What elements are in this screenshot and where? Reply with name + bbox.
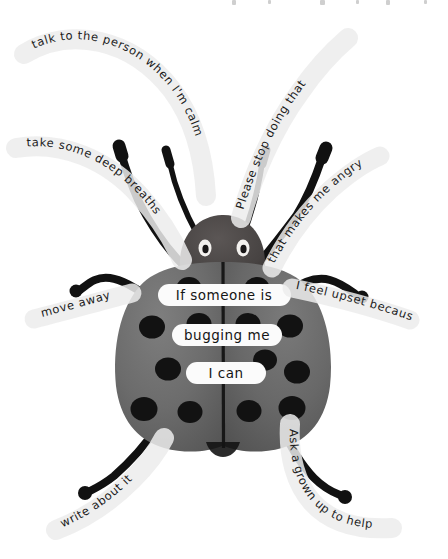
strategy-deep-breaths-text: take some deep breaths [26, 135, 164, 217]
center-label-2: bugging me [172, 324, 282, 346]
strategy-write-about-it: write about it [56, 438, 164, 530]
center-label-3-text: I can [208, 365, 243, 381]
abdomen-tip [206, 442, 240, 457]
strategy-makes-me-angry: that makes me angry [264, 155, 380, 268]
center-label-1: If someone is [158, 284, 291, 306]
center-label-3: I can [186, 362, 266, 384]
ladybug-illustration: If someone is bugging me I can talk to t… [0, 0, 448, 559]
strategy-please-stop-text: Please stop doing that [233, 77, 309, 211]
eye-right [237, 240, 250, 257]
center-label-2-text: bugging me [184, 327, 270, 343]
strategy-ask-grown-up: Ask a grown up to help [287, 424, 392, 531]
eye-left [199, 240, 212, 257]
center-label-1-text: If someone is [176, 287, 272, 303]
strategy-deep-breaths: take some deep breaths [16, 135, 182, 260]
top-edge-scan-artifacts [232, 0, 427, 5]
strategy-ask-grown-up-text: Ask a grown up to help [287, 429, 374, 531]
poster-canvas: If someone is bugging me I can talk to t… [0, 0, 448, 559]
